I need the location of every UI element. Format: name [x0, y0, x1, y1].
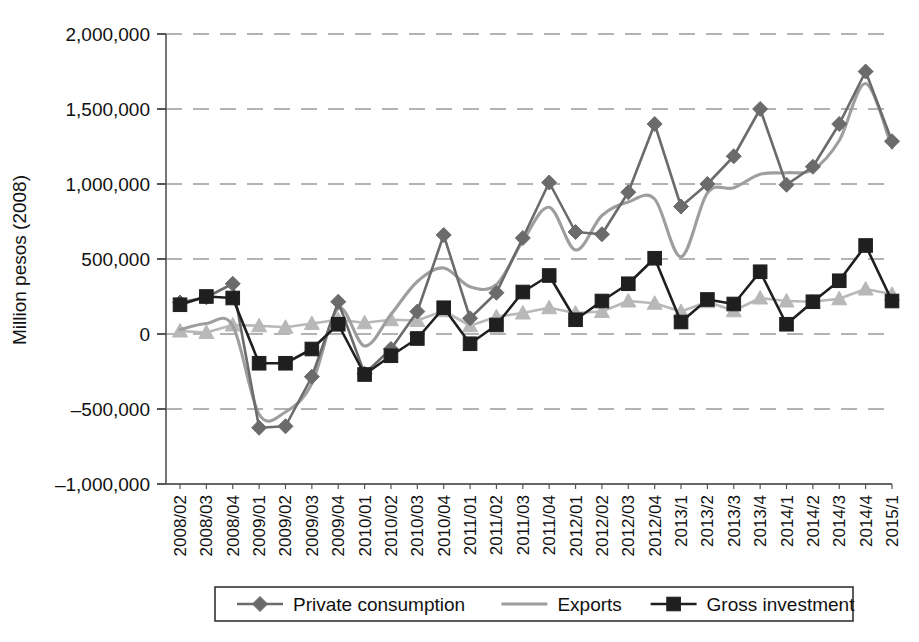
- y-tick-label: 1,500,000: [65, 99, 150, 120]
- x-tick-label: 2014/3: [830, 495, 849, 547]
- data-point-diamond: [436, 228, 451, 243]
- x-tick-label: 2014/4: [857, 495, 876, 547]
- x-tick-label: 2009/01: [250, 495, 269, 556]
- data-point-square: [411, 332, 425, 346]
- data-point-diamond: [252, 420, 267, 435]
- data-point-square: [384, 349, 398, 363]
- data-point-triangle: [858, 282, 873, 296]
- data-point-diamond: [594, 227, 609, 242]
- y-tick-label: 500,000: [81, 249, 150, 270]
- data-point-square: [358, 368, 372, 382]
- data-series-group: [173, 64, 900, 435]
- x-tick-label: 2011/01: [461, 495, 480, 555]
- data-point-diamond: [621, 185, 636, 200]
- data-point-square: [569, 313, 583, 327]
- data-point-square: [701, 293, 715, 307]
- x-tick-label: 2008/04: [224, 495, 243, 556]
- data-point-diamond: [542, 175, 557, 190]
- x-tick-label: 2013/3: [725, 495, 744, 547]
- legend-label: Exports: [557, 594, 621, 615]
- x-tick-label: 2013/1: [672, 495, 691, 547]
- gridlines-group: [166, 34, 892, 484]
- data-point-diamond: [647, 117, 662, 132]
- chart-figure: –1,000,000–500,0000500,0001,000,0001,500…: [0, 0, 919, 642]
- chart-legend: Private consumptionExportsGross investme…: [215, 587, 855, 621]
- data-point-square: [331, 317, 345, 331]
- x-tick-label: 2011/03: [514, 495, 533, 555]
- x-tick-label: 2012/03: [619, 495, 638, 556]
- y-tick-label: –1,000,000: [55, 474, 150, 495]
- x-axis-ticks-group: 2008/022008/032008/042009/012009/022009/…: [171, 484, 902, 556]
- data-point-square: [516, 285, 530, 299]
- x-tick-label: 2010/01: [356, 495, 375, 556]
- x-tick-label: 2012/04: [646, 495, 665, 556]
- data-point-square: [252, 356, 266, 370]
- y-tick-label: 2,000,000: [65, 24, 150, 45]
- data-point-square: [885, 294, 899, 308]
- data-point-square: [542, 269, 556, 283]
- data-point-square: [832, 274, 846, 288]
- data-point-square: [780, 317, 794, 331]
- data-point-diamond: [225, 276, 240, 291]
- x-tick-label: 2008/03: [197, 495, 216, 556]
- data-point-diamond: [278, 419, 293, 434]
- x-tick-label: 2012/01: [567, 495, 586, 556]
- series-line: [180, 72, 892, 428]
- x-tick-label: 2014/1: [778, 495, 797, 547]
- x-tick-label: 2012/02: [593, 495, 612, 556]
- x-tick-label: 2008/02: [171, 495, 190, 556]
- data-point-diamond: [858, 64, 873, 79]
- x-tick-label: 2009/02: [276, 495, 295, 556]
- x-tick-label: 2010/03: [408, 495, 427, 556]
- legend-label: Private consumption: [293, 594, 465, 615]
- data-point-square: [305, 342, 319, 356]
- series-private-consumption: [173, 64, 900, 435]
- x-tick-label: 2013/4: [751, 495, 770, 547]
- series-line: [180, 83, 892, 421]
- x-tick-label: 2010/04: [435, 495, 454, 556]
- data-point-square: [753, 265, 767, 279]
- data-point-square: [859, 239, 873, 253]
- data-point-square: [200, 290, 214, 304]
- series-exports: [180, 83, 892, 421]
- data-point-square: [727, 297, 741, 311]
- line-chart: –1,000,000–500,0000500,0001,000,0001,500…: [0, 0, 919, 642]
- y-tick-label: 1,000,000: [65, 174, 150, 195]
- data-point-diamond: [331, 294, 346, 309]
- data-point-square: [621, 277, 635, 291]
- data-point-square: [490, 318, 504, 332]
- legend-label: Gross investment: [707, 594, 856, 615]
- y-tick-label: 0: [139, 324, 150, 345]
- data-point-square: [648, 251, 662, 265]
- data-point-square: [437, 301, 451, 315]
- x-tick-label: 2011/04: [540, 495, 559, 555]
- data-point-square: [674, 315, 688, 329]
- data-point-square: [463, 337, 477, 351]
- x-tick-label: 2013/2: [698, 495, 717, 547]
- x-tick-label: 2009/04: [329, 495, 348, 556]
- data-point-square: [667, 597, 681, 611]
- x-tick-label: 2015/1: [883, 495, 902, 547]
- data-point-diamond: [753, 102, 768, 117]
- y-axis-title: Million pesos (2008): [9, 175, 30, 345]
- x-tick-label: 2009/03: [303, 495, 322, 556]
- x-tick-label: 2011/02: [487, 495, 506, 555]
- data-point-square: [806, 295, 820, 309]
- data-point-square: [279, 356, 293, 370]
- y-axis-ticks-group: –1,000,000–500,0000500,0001,000,0001,500…: [55, 24, 166, 495]
- data-point-triangle: [542, 300, 557, 314]
- data-point-triangle: [753, 291, 768, 305]
- x-tick-label: 2010/02: [382, 495, 401, 556]
- x-tick-label: 2014/2: [804, 495, 823, 547]
- data-point-square: [595, 294, 609, 308]
- data-point-square: [173, 298, 187, 312]
- data-point-diamond: [568, 225, 583, 240]
- data-point-square: [226, 291, 240, 305]
- data-point-diamond: [779, 177, 794, 192]
- y-tick-label: –500,000: [71, 399, 150, 420]
